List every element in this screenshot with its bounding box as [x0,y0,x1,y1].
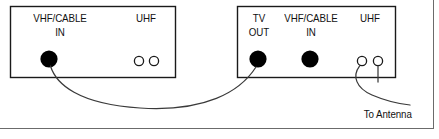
right-uhf-label: UHF [350,12,391,24]
to-antenna-label: To Antenna [364,108,412,120]
right-uhf-terminal-2 [373,56,382,65]
right-tv-out-terminal [249,50,266,67]
right-tv-out-label-line1: TV [240,12,277,24]
left-vhf-cable-in-terminal [40,50,57,67]
left-vhf-cable-in-label-line1: VHF/CABLE [17,12,103,24]
left-uhf-label: UHF [122,12,170,24]
right-vhf-cable-in-label-line1: VHF/CABLE [282,12,340,24]
right-vhf-cable-in-label-line2: IN [282,26,340,38]
left-vhf-cable-in-label-line2: IN [17,26,103,38]
right-vhf-cable-in-terminal [301,50,318,67]
diagram-canvas: VHF/CABLE IN UHF TV OUT VHF/CABLE IN UHF… [0,0,439,139]
left-uhf-terminal-1 [134,56,143,65]
right-uhf-terminal-1 [357,56,366,65]
left-uhf-terminal-2 [149,56,158,65]
right-tv-out-label-line2: OUT [240,26,277,38]
